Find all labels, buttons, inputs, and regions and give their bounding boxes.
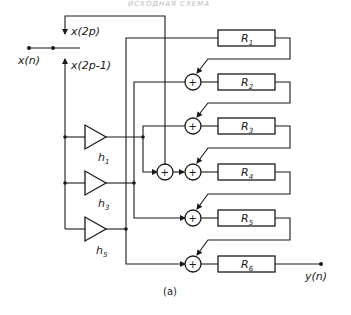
svg-text:+: + — [161, 167, 169, 178]
adder-6: + — [185, 256, 218, 272]
output-label: y(n) — [304, 270, 327, 283]
multiplier-h3 — [63, 171, 134, 195]
figure-caption: (a) — [163, 286, 177, 297]
multiplier-label-h5: h5 — [96, 244, 108, 259]
multiplier-label-h1: h1 — [98, 151, 109, 166]
input-switch — [27, 46, 80, 50]
adder-2: + — [185, 74, 218, 90]
svg-text:+: + — [189, 121, 197, 132]
adder-3: + — [185, 118, 218, 134]
multiplier-h5 — [65, 217, 126, 241]
svg-text:+: + — [189, 77, 197, 88]
adder-4: + — [185, 164, 218, 180]
adder-5: + — [185, 210, 218, 226]
diagram-canvas: ИСХОДНАЯ СХЕМА x(n) x(2p) x(2p-1) h1 h3 … — [0, 0, 351, 315]
h3-fanout-wires — [132, 82, 185, 218]
faint-header-text: ИСХОДНАЯ СХЕМА — [128, 0, 210, 8]
multiplier-h1 — [63, 125, 143, 149]
input-label: x(n) — [17, 54, 40, 67]
multiplier-label-h3: h3 — [98, 197, 109, 212]
h5-fanout-wires — [124, 38, 218, 264]
svg-text:+: + — [189, 259, 197, 270]
adder-centre: + — [157, 164, 184, 180]
branch-odd-label: x(2p-1) — [70, 59, 111, 72]
svg-text:+: + — [189, 167, 197, 178]
branch-even-label: x(2p) — [70, 25, 100, 38]
svg-text:+: + — [189, 213, 197, 224]
